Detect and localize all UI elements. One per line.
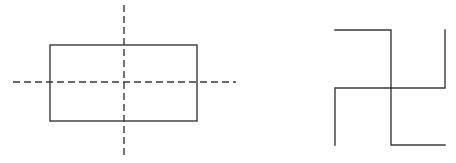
rotational-figure-top-arm [335, 30, 391, 88]
rotational-figure [335, 30, 445, 145]
rotational-figure-bottom-arm [391, 88, 445, 145]
rectangle-figure [13, 5, 236, 158]
diagram-canvas [0, 0, 456, 163]
rotational-figure-right-arm [391, 30, 445, 88]
rotational-figure-left-arm [335, 88, 391, 145]
